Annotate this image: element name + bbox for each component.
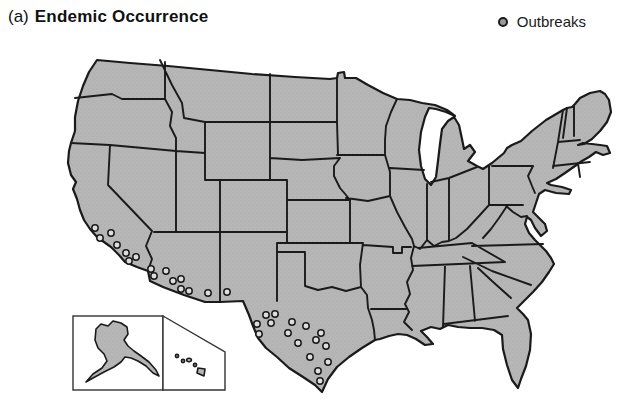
outbreak-dot <box>224 289 230 295</box>
outbreak-dot <box>303 323 309 329</box>
figure-panel: (a) Endemic Occurrence Outbreaks <box>0 0 626 417</box>
outbreak-dot <box>123 250 129 256</box>
outbreak-dot <box>325 359 331 365</box>
outbreak-dot <box>318 330 324 336</box>
outbreak-dot <box>256 331 262 337</box>
inset <box>73 316 225 390</box>
outbreak-dot <box>323 343 329 349</box>
outbreak-dot <box>178 276 184 282</box>
outbreak-dot <box>178 286 184 292</box>
outbreak-dot <box>313 337 319 343</box>
outbreak-dot <box>295 340 301 346</box>
outbreak-dot <box>151 273 157 279</box>
outbreak-dot <box>186 288 192 294</box>
outbreak-dot <box>163 268 169 274</box>
outbreak-dot <box>307 354 313 360</box>
outbreak-dot <box>148 266 154 272</box>
outbreak-dot <box>263 312 269 318</box>
outbreak-dot <box>92 225 98 231</box>
outbreak-dot <box>108 230 114 236</box>
hawaii-inset-box <box>163 316 225 390</box>
outbreak-dot <box>205 290 211 296</box>
outbreak-dot <box>114 242 120 248</box>
outbreak-dot <box>133 254 139 260</box>
outbreak-dot <box>272 311 278 317</box>
us-map-svg <box>0 0 626 417</box>
outbreak-dot <box>289 319 295 325</box>
outbreak-dot <box>268 320 274 326</box>
outbreak-dot <box>97 235 103 241</box>
outbreak-dot <box>170 278 176 284</box>
outbreak-dot <box>254 321 260 327</box>
outbreak-dot <box>285 330 291 336</box>
outbreak-dot <box>315 368 321 374</box>
outbreak-dot <box>126 258 132 264</box>
outbreak-dot <box>317 378 323 384</box>
